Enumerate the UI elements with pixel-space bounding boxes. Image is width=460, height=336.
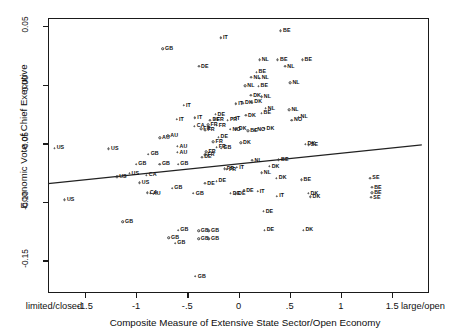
x-axis-title-text: Composite Measure of Extensive State Sec… [80,317,381,328]
x-axis-tick-label: 1.5 [386,301,399,311]
x-axis-tick [85,293,86,298]
y-axis-tick-label: -0.15 [12,254,38,263]
x-axis-tick [136,293,137,298]
x-axis-tick-label: 1 [338,301,343,311]
y-axis-tick-label: 0.05 [12,20,38,29]
x-axis-tick-label: -1.5 [77,301,93,311]
plot-area-frame [48,18,429,293]
x-axis-tick [187,293,188,298]
x-axis-endpoint-label: large/open [401,301,445,311]
y-axis-tick [43,260,48,261]
y-axis-tick-label: 0.00 [12,79,38,88]
x-axis-tick-label: -.5 [182,301,193,311]
y-axis-tick [43,85,48,86]
x-axis-tick [392,293,393,298]
y-axis-tick [43,202,48,203]
x-axis-tick [341,293,342,298]
x-axis-tick [239,293,240,298]
y-axis-tick-label: -0.10 [12,196,38,205]
x-axis-endpoint-label: limited/closed [26,301,82,311]
y-axis-tick-label: -0.05 [12,137,38,146]
y-axis-tick [43,143,48,144]
x-axis-tick-label: 0 [236,301,241,311]
x-axis-tick [290,293,291,298]
x-axis-tick-label: -1 [132,301,140,311]
x-axis-tick-label: .5 [286,301,294,311]
x-axis-title: Composite Measure of Extensive State Sec… [0,317,460,328]
scatter-plot-figure: Economic Vote of Chief Executive 0.050.0… [0,0,460,336]
y-axis-tick [43,26,48,27]
